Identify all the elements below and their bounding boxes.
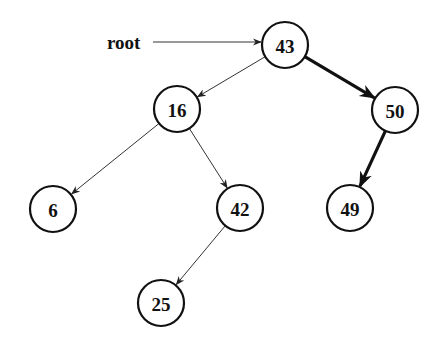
node-value: 6 bbox=[48, 200, 58, 221]
node-value: 25 bbox=[152, 294, 171, 315]
tree-node-49: 49 bbox=[327, 185, 373, 231]
node-value: 43 bbox=[276, 36, 295, 57]
edge-16-to-42-arrow-icon bbox=[189, 128, 227, 187]
edge-50-to-49-arrow-icon bbox=[360, 131, 385, 186]
tree-node-50: 50 bbox=[372, 87, 418, 133]
edges-layer bbox=[72, 57, 386, 285]
root-pointer: root bbox=[107, 32, 261, 53]
tree-node-42: 42 bbox=[217, 185, 263, 231]
tree-node-25: 25 bbox=[138, 280, 184, 326]
edge-43-to-50-arrow-icon bbox=[305, 57, 375, 98]
binary-search-tree-diagram: root 4316506424925 bbox=[0, 0, 437, 342]
node-value: 42 bbox=[231, 199, 250, 220]
tree-node-43: 43 bbox=[262, 22, 308, 68]
node-value: 16 bbox=[168, 100, 187, 121]
edge-42-to-25-arrow-icon bbox=[176, 226, 225, 285]
root-label: root bbox=[107, 32, 141, 53]
node-value: 50 bbox=[386, 101, 405, 122]
tree-node-16: 16 bbox=[154, 86, 200, 132]
nodes-layer: 4316506424925 bbox=[30, 22, 418, 326]
edge-16-to-6-arrow-icon bbox=[72, 123, 159, 193]
node-value: 49 bbox=[341, 199, 360, 220]
tree-node-6: 6 bbox=[30, 186, 76, 232]
edge-43-to-16-arrow-icon bbox=[198, 57, 266, 97]
